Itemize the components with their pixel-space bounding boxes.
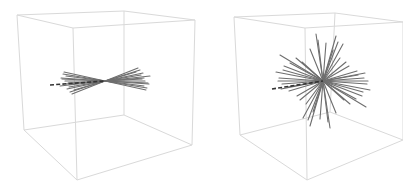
- box-edge: [124, 115, 192, 145]
- box-edge: [24, 115, 124, 130]
- left-panel: [0, 0, 403, 188]
- box-edge: [17, 15, 24, 130]
- box-edge: [305, 22, 403, 28]
- box-edge: [234, 17, 240, 135]
- box-edge: [335, 13, 403, 22]
- box-edge: [17, 15, 73, 28]
- box-edge: [17, 11, 124, 15]
- box-edge: [234, 13, 335, 17]
- box-edge: [240, 112, 330, 135]
- right-cube-plot: [234, 13, 403, 180]
- box-edge: [307, 140, 403, 180]
- box-edge: [24, 130, 77, 180]
- box-edge: [77, 145, 192, 180]
- left-cube-plot: [17, 11, 195, 180]
- wireframe-figure: [0, 0, 403, 188]
- box-edge: [330, 112, 403, 140]
- box-edge: [234, 17, 305, 28]
- box-edge: [240, 135, 307, 180]
- box-edge: [73, 20, 195, 28]
- box-edge: [73, 28, 77, 180]
- box-edge: [124, 11, 195, 20]
- box-edge: [192, 20, 195, 145]
